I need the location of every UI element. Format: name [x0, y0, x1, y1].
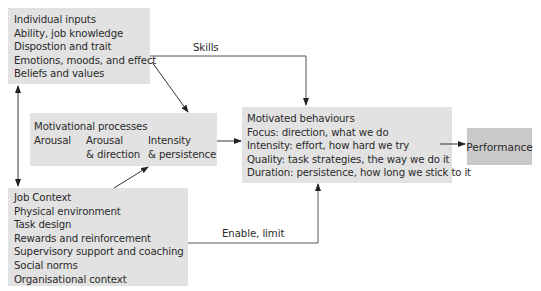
skills-arrow — [150, 56, 306, 105]
individual-inputs-item: Dispostion and trait — [14, 40, 150, 54]
job-context-box: Job Context Physical environment Task de… — [8, 188, 188, 286]
context-to-processes-arrow — [114, 167, 148, 188]
individual-inputs-item: Emotions, moods, and effect — [14, 54, 150, 68]
individual-inputs-box: Individual inputs Ability, job knowledge… — [8, 8, 150, 84]
process-arousal-direction: Arousal — [86, 134, 123, 148]
job-context-item: Task design — [14, 218, 188, 232]
motivational-processes-title: Motivational processes — [34, 120, 147, 134]
individual-inputs-item: Ability, job knowledge — [14, 27, 150, 41]
job-context-item: Physical environment — [14, 205, 188, 219]
skills-label: Skills — [193, 42, 219, 53]
behaviour-quality: Quality: task strategies, the way we do … — [247, 153, 452, 167]
motivated-behaviours-box: Motivated behaviours Focus: direction, w… — [242, 107, 452, 183]
process-arousal-direction-2: & direction — [86, 148, 140, 162]
performance-box: Performance — [467, 128, 532, 165]
job-context-title: Job Context — [14, 191, 188, 205]
motivational-processes-box: Motivational processes Arousal Arousal &… — [30, 113, 217, 166]
job-context-item: Supervisory support and coaching — [14, 245, 188, 259]
performance-label: Performance — [466, 141, 533, 153]
process-intensity-persistence: Intensity — [148, 134, 191, 148]
job-context-item: Social norms — [14, 259, 188, 273]
process-arousal: Arousal — [34, 134, 71, 148]
behaviour-intensity: Intensity: effort, how hard we try — [247, 139, 452, 153]
individual-inputs-item: Beliefs and values — [14, 67, 150, 81]
enable-limit-label: Enable, limit — [222, 228, 284, 239]
job-context-item: Organisational context — [14, 273, 188, 287]
job-context-item: Rewards and reinforcement — [14, 232, 188, 246]
individual-inputs-title: Individual inputs — [14, 13, 150, 27]
inputs-to-processes-arrow — [152, 62, 188, 112]
behaviour-focus: Focus: direction, what we do — [247, 126, 452, 140]
motivated-behaviours-title: Motivated behaviours — [247, 112, 452, 126]
behaviour-duration: Duration: persistence, how long we stick… — [247, 166, 452, 180]
process-intensity-persistence-2: & persistence — [148, 148, 216, 162]
